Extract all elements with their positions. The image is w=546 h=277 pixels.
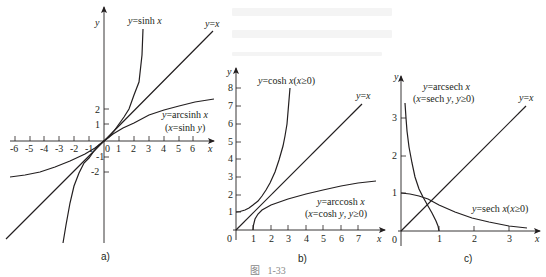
y-tick-label: 2 <box>95 104 100 115</box>
y-tick-label: 3 <box>228 171 233 182</box>
y-tick-label: 1 <box>95 119 100 130</box>
x-ticks <box>439 226 509 231</box>
x-tick-label: 4 <box>161 143 166 154</box>
x-ticks <box>253 225 358 230</box>
x-axis-label: x <box>207 143 213 154</box>
x-tick-label: 2 <box>472 233 477 244</box>
x-axis-label: x <box>376 233 382 244</box>
x-tick-label: -3 <box>55 143 63 154</box>
x-tick-label: -5 <box>25 143 33 154</box>
panel-c-caption: c) <box>464 253 472 264</box>
label-arccosh-line1: y=arccosh x <box>316 196 365 207</box>
y-tick-label: 1 <box>228 206 233 217</box>
label-arcsinh-line2: (x=sinh y) <box>165 122 205 134</box>
y-tick-label: 3 <box>392 112 397 123</box>
y-axis-label: y <box>94 17 100 28</box>
panel-a: -6 -5 -4 -3 -2 -1 0 1 2 3 4 5 6 x 1 2 -1… <box>6 7 220 262</box>
y-axis-label: y <box>393 71 399 82</box>
curve-sinh <box>63 29 143 243</box>
x-tick-label: 3 <box>146 143 151 154</box>
y-tick-label: 6 <box>228 118 233 129</box>
label-identity: y=x <box>355 90 371 101</box>
label-arcsinh-line1: y=arcsinh x <box>161 109 208 120</box>
label-identity: y=x <box>204 18 220 29</box>
y-axis-label: y <box>226 66 232 77</box>
y-tick-label: -2 <box>91 166 99 177</box>
label-identity: y=x <box>518 92 534 103</box>
label-sinh: y=sinh x <box>127 15 162 26</box>
curve-cosh <box>236 88 290 212</box>
x-tick-label: -4 <box>40 143 48 154</box>
label-arcsech-line2: (x=sech y, y≥0) <box>413 93 474 105</box>
panel-a-caption: a) <box>101 251 110 262</box>
x-tick-label: 6 <box>339 233 344 244</box>
x-tick-label: 4 <box>304 233 309 244</box>
x-tick-label: 1 <box>437 233 442 244</box>
x-tick-label: 6 <box>190 143 195 154</box>
x-tick-label: 5 <box>321 233 326 244</box>
x-tick-label: -6 <box>10 143 18 154</box>
x-tick-label: 1 <box>116 143 121 154</box>
y-ticks <box>401 118 406 193</box>
label-sech: y=sech x(x≥0) <box>471 203 528 215</box>
panel-c: 0 1 2 3 x 1 2 3 y y=arcsech x (x=sech y,… <box>392 71 540 264</box>
x-tick-label: 3 <box>286 233 291 244</box>
label-arcsech-line1: y=arcsech x <box>422 81 471 92</box>
panel-b: 0 1 2 3 4 5 6 7 x 1 2 3 4 5 6 7 8 y y=co… <box>226 66 385 264</box>
y-tick-label: -1 <box>96 151 104 162</box>
panel-b-caption: b) <box>298 253 307 264</box>
x-axis-label: x <box>534 233 540 244</box>
y-tick-label: 2 <box>392 150 397 161</box>
x-tick-label: -2 <box>70 143 78 154</box>
origin-label: 0 <box>105 143 110 154</box>
y-tick-label: 7 <box>228 100 233 111</box>
x-tick-label: 3 <box>507 233 512 244</box>
x-tick-label: 2 <box>269 233 274 244</box>
x-tick-label: 5 <box>176 143 181 154</box>
curve-identity <box>6 31 213 239</box>
figure-caption: 图 1-33 <box>250 265 286 276</box>
y-tick-label: 4 <box>228 153 233 164</box>
x-tick-label: 2 <box>131 143 136 154</box>
origin-label: 0 <box>392 234 397 245</box>
x-tick-label: 7 <box>356 233 361 244</box>
y-tick-label: 5 <box>228 136 233 147</box>
y-tick-label: 2 <box>228 189 233 200</box>
y-tick-label: 8 <box>228 82 233 93</box>
y-tick-label: 1 <box>392 187 397 198</box>
origin-label: 0 <box>227 233 232 244</box>
label-cosh: y=cosh x(x≥0) <box>257 75 315 87</box>
figure-1-33: -6 -5 -4 -3 -2 -1 0 1 2 3 4 5 6 x 1 2 -1… <box>0 0 546 277</box>
label-arccosh-line2: (x=cosh y, y≥0) <box>305 208 367 220</box>
y-ticks <box>236 88 241 212</box>
x-tick-label: 1 <box>251 233 256 244</box>
curve-arcsech <box>405 103 439 231</box>
